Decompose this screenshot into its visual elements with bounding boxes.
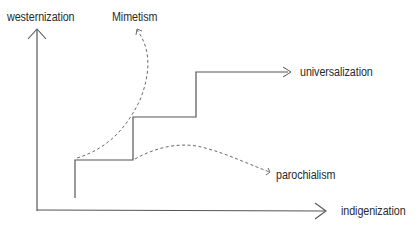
x-axis [37,203,326,219]
parochialism-dashed-curve [135,145,270,175]
y-axis [28,29,46,211]
diagram-canvas [0,0,418,233]
parochialism-label: parochialism [276,168,335,182]
x-axis-label: indigenization [341,204,406,218]
mimetism-dashed-curve [77,29,148,158]
universalization-label: universalization [300,65,373,79]
mimetism-label: Mimetism [112,10,157,24]
y-axis-label: westernization [7,10,75,24]
universalization-step-line [75,67,291,198]
